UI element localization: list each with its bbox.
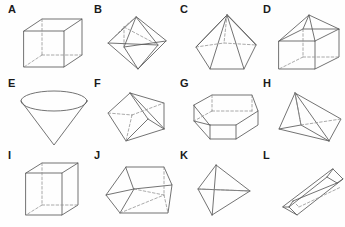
figure-cell-i[interactable]: I — [6, 150, 92, 222]
figure-shape-tetrahedron — [188, 157, 264, 221]
figure-cell-j[interactable]: J — [92, 150, 178, 222]
cone-visible-edges — [21, 91, 87, 145]
hex-prism-hidden-edges — [194, 95, 252, 121]
pentagonal-pyramid-visible-edges — [196, 15, 256, 69]
figure-label-h: H — [263, 78, 271, 89]
cube-hidden-edges — [24, 19, 82, 67]
figure-shape-inverted-cone — [16, 85, 92, 149]
figure-shape-open-trough — [271, 157, 345, 221]
figure-label-a: A — [8, 4, 16, 15]
octahedron-hidden-edges — [108, 17, 158, 47]
trough-hidden-edges — [293, 187, 341, 207]
figure-shape-pentagonal-pyramid — [188, 11, 264, 75]
figure-cell-h[interactable]: H — [261, 78, 345, 150]
figure-shape-cube-with-pyramid-roof — [271, 11, 345, 75]
figure-shape-cube — [16, 11, 92, 75]
figure-shape-triangular-prism-wedge — [271, 85, 345, 149]
figure-cell-k[interactable]: K — [178, 150, 264, 222]
cube-visible-edges — [24, 19, 82, 67]
figure-shape-hexagonal-prism — [188, 85, 264, 149]
trough-visible-edges — [283, 169, 343, 215]
tilted-pyramid-hidden-edges — [108, 103, 164, 141]
wedge-hidden-edges — [295, 93, 341, 125]
figure-label-i: I — [8, 150, 11, 161]
tall-cube-visible-edges — [26, 163, 78, 215]
figure-cell-f[interactable]: F — [92, 78, 178, 150]
figure-shape-tall-cube — [16, 157, 92, 221]
house-solid-hidden-edges — [279, 29, 339, 69]
figure-label-e: E — [8, 78, 15, 89]
figure-cell-d[interactable]: D — [261, 4, 345, 76]
tall-cube-hidden-edges — [26, 163, 78, 215]
figure-cell-g[interactable]: G — [178, 78, 264, 150]
figure-label-b: B — [94, 4, 102, 15]
figure-shape-tilted-square-pyramid — [102, 85, 178, 149]
frustum-hidden-edges — [120, 167, 168, 213]
house-solid-visible-edges — [279, 15, 339, 69]
figure-cell-a[interactable]: A — [6, 4, 92, 76]
figure-label-d: D — [263, 4, 271, 15]
figure-label-c: C — [180, 4, 188, 15]
hex-prism-visible-edges — [194, 95, 258, 139]
figure-shape-frustum — [102, 157, 178, 221]
wedge-visible-edges — [279, 93, 341, 141]
figure-label-j: J — [94, 150, 100, 161]
figure-cell-c[interactable]: C — [178, 4, 264, 76]
figure-cell-e[interactable]: E — [6, 78, 92, 150]
figure-label-k: K — [180, 150, 188, 161]
figure-cell-l[interactable]: L — [261, 150, 345, 222]
tilted-pyramid-visible-edges — [108, 93, 164, 141]
geometric-solids-sheet: A B — [0, 0, 345, 227]
octahedron-visible-edges — [108, 17, 166, 69]
figure-shape-octahedron — [102, 11, 178, 75]
figure-label-l: L — [263, 150, 270, 161]
figure-cell-b[interactable]: B — [92, 4, 178, 76]
pentagonal-pyramid-hidden-edges — [196, 15, 256, 47]
figure-label-f: F — [94, 78, 101, 89]
